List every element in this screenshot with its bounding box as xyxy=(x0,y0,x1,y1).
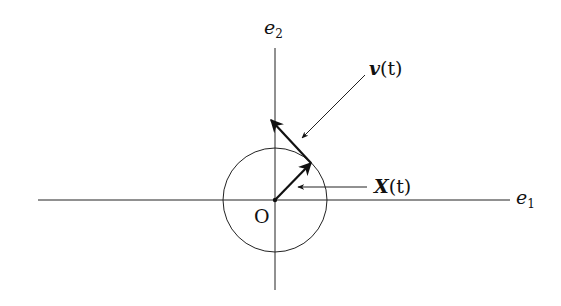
v-arg: (t) xyxy=(380,57,402,79)
e1-sub: 1 xyxy=(527,197,535,211)
x-arg: (t) xyxy=(389,175,411,197)
e2-label: e2 xyxy=(264,16,283,41)
x-symbol: X xyxy=(373,175,390,197)
vector-diagram: e2 e1 v(t) X(t) O xyxy=(0,0,561,306)
v-label-pointer xyxy=(302,75,365,138)
velocity-vector-v xyxy=(271,120,311,163)
e2-sub: 2 xyxy=(275,27,283,41)
v-label: v(t) xyxy=(369,57,403,79)
e2-base: e xyxy=(264,16,275,38)
position-vector-x xyxy=(275,163,311,200)
origin-label: O xyxy=(254,205,270,227)
e1-label: e1 xyxy=(516,186,535,211)
e1-base: e xyxy=(516,186,527,208)
x-label: X(t) xyxy=(373,175,411,197)
